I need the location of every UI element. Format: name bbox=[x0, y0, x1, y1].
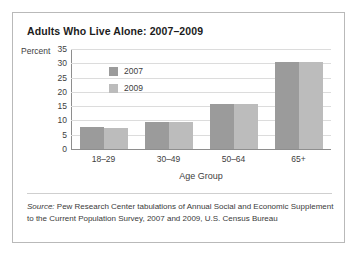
bar-group bbox=[210, 49, 258, 149]
bar bbox=[234, 104, 258, 149]
bar bbox=[299, 62, 323, 149]
source-note: Source: Pew Research Center tabulations … bbox=[27, 201, 335, 225]
y-axis-tick: 20 bbox=[39, 88, 67, 97]
legend-item: 2009 bbox=[109, 82, 143, 95]
footer-divider bbox=[27, 193, 332, 194]
source-text: Pew Research Center tabulations of Annua… bbox=[27, 202, 333, 223]
gridline bbox=[71, 149, 331, 150]
bar bbox=[275, 62, 299, 149]
x-axis-tick: 30–49 bbox=[136, 154, 201, 164]
legend-swatch-icon bbox=[109, 67, 118, 76]
y-axis-tick-labels: 05101520253035 bbox=[37, 49, 67, 149]
y-axis-tick: 5 bbox=[39, 131, 67, 140]
chart-figure: Adults Who Live Alone: 2007–2009 Percent… bbox=[12, 12, 345, 243]
bar bbox=[210, 104, 234, 149]
bar bbox=[80, 127, 104, 149]
legend-item: 2007 bbox=[109, 65, 143, 78]
y-axis-tick: 30 bbox=[39, 59, 67, 68]
legend-swatch-icon bbox=[109, 84, 118, 93]
bar-group bbox=[80, 49, 128, 149]
chart-title: Adults Who Live Alone: 2007–2009 bbox=[27, 25, 203, 37]
x-axis-tick-labels: 18–2930–4950–6465+ bbox=[71, 154, 331, 166]
x-axis-tick: 50–64 bbox=[201, 154, 266, 164]
x-axis-tick: 65+ bbox=[266, 154, 331, 164]
y-axis-tick: 25 bbox=[39, 74, 67, 83]
y-axis-tick: 35 bbox=[39, 45, 67, 54]
legend-label: 2007 bbox=[124, 67, 143, 76]
bar bbox=[104, 128, 128, 149]
plot-area: 20072009 bbox=[71, 49, 331, 149]
chart-legend: 20072009 bbox=[109, 65, 143, 99]
x-axis-tick: 18–29 bbox=[71, 154, 136, 164]
legend-label: 2009 bbox=[124, 84, 143, 93]
bar-group bbox=[275, 49, 323, 149]
bar bbox=[169, 122, 193, 149]
x-axis-label: Age Group bbox=[71, 171, 331, 181]
y-axis-tick: 15 bbox=[39, 102, 67, 111]
y-axis-tick: 10 bbox=[39, 116, 67, 125]
source-prefix: Source: bbox=[27, 202, 55, 211]
bar bbox=[145, 122, 169, 149]
y-axis-tick: 0 bbox=[39, 145, 67, 154]
bar-group bbox=[145, 49, 193, 149]
